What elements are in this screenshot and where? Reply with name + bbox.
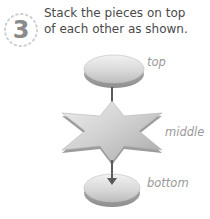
middle-star — [62, 101, 162, 165]
label-top: top — [147, 55, 166, 69]
top-disc — [84, 55, 144, 88]
label-bottom: bottom — [147, 176, 189, 190]
label-middle: middle — [165, 125, 204, 139]
bottom-disc — [84, 174, 140, 207]
